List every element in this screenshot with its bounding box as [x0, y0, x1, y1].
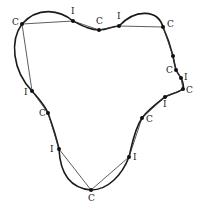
- smooth-contour-curve: [15, 12, 184, 190]
- contour-diagram: CICICCICICICICI: [0, 0, 201, 214]
- convex-label: C: [12, 17, 19, 27]
- convex-label: C: [186, 85, 193, 95]
- points-layer: [20, 19, 185, 192]
- convex-point: [140, 116, 144, 120]
- convex-label: C: [146, 114, 153, 124]
- inflection-label: I: [24, 87, 28, 97]
- inflection-label: I: [50, 144, 54, 154]
- convex-point: [89, 188, 93, 192]
- inflection-label: I: [71, 6, 75, 16]
- convex-label: C: [39, 108, 46, 118]
- inflection-point: [30, 89, 34, 93]
- inflection-label: I: [163, 99, 167, 109]
- convex-label: C: [88, 193, 95, 203]
- convex-label: C: [96, 16, 103, 26]
- convex-point: [181, 87, 185, 91]
- convex-point: [161, 25, 165, 29]
- inflection-label: I: [184, 72, 188, 82]
- convex-point: [97, 28, 101, 32]
- convex-point: [174, 68, 178, 72]
- convex-label: C: [167, 19, 174, 29]
- convex-label: C: [166, 65, 173, 75]
- inflection-point: [179, 76, 183, 80]
- inflection-point: [127, 155, 131, 159]
- convex-point: [46, 111, 50, 115]
- convex-point: [20, 22, 24, 26]
- vertex-point: [171, 54, 175, 58]
- polygon-approximation: [22, 21, 183, 190]
- inflection-point: [117, 24, 121, 28]
- inflection-label: I: [117, 11, 121, 21]
- inflection-label: I: [133, 152, 137, 162]
- inflection-point: [57, 147, 61, 151]
- inflection-point: [71, 19, 75, 23]
